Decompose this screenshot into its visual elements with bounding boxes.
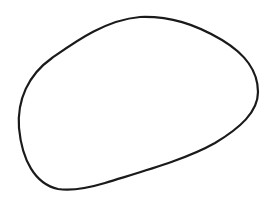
oval-sketch — [0, 0, 274, 206]
drawing-canvas — [0, 0, 274, 206]
oval-outline — [19, 17, 258, 190]
